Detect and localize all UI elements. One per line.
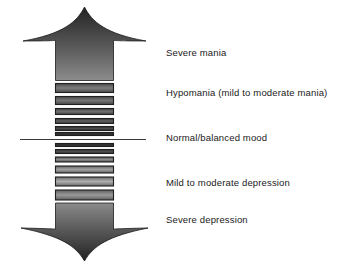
mood-bar-above-3 — [56, 109, 114, 115]
mood-bar-below-6 — [56, 190, 114, 200]
mood-bar-below-4 — [56, 166, 114, 173]
label-mild-to-moderate-depression: Mild to moderate depression — [166, 178, 290, 188]
mood-spectrum-figure: Severe mania Hypomania (mild to moderate… — [0, 0, 350, 267]
mood-bar-above-5 — [56, 127, 114, 131]
mood-bar-above-2 — [56, 97, 114, 105]
up-arrow-severe-mania — [23, 7, 146, 81]
mood-bar-below-2 — [56, 150, 114, 154]
mood-bar-below-1 — [56, 144, 114, 147]
mood-bar-below-5 — [56, 177, 114, 186]
mood-bar-above-1 — [56, 84, 114, 93]
mood-bar-below-3 — [56, 157, 114, 162]
label-severe-mania: Severe mania — [166, 48, 226, 58]
label-normal-balanced-mood: Normal/balanced mood — [166, 133, 267, 143]
label-severe-depression: Severe depression — [166, 215, 248, 225]
label-hypomania: Hypomania (mild to moderate mania) — [166, 88, 327, 98]
down-arrow-severe-depression — [21, 203, 148, 261]
mood-bar-above-4 — [56, 119, 114, 124]
mood-bar-above-6 — [56, 133, 114, 136]
